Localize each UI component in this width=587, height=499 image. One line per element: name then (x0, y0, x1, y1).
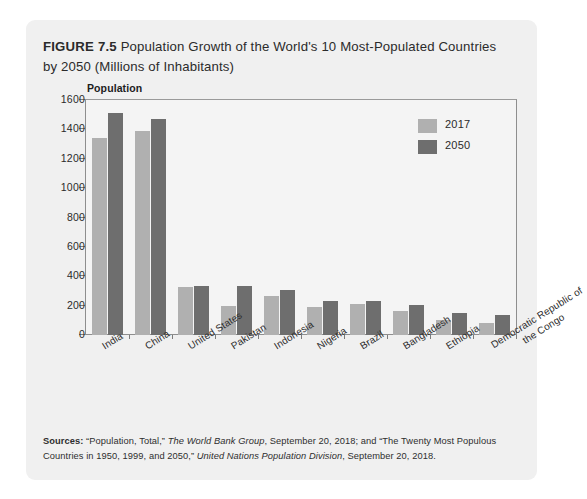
y-tick-label: 1400 (45, 122, 85, 134)
legend-row: 2017 (418, 118, 514, 135)
bar-2050 (151, 119, 166, 335)
legend-label: 2017 (445, 118, 470, 130)
bar-2017 (135, 131, 150, 335)
source-italic-1: The World Bank Group (168, 436, 265, 446)
legend-label: 2050 (445, 139, 470, 151)
bar-2017 (350, 304, 365, 335)
bar-group (350, 100, 381, 335)
bar-group (264, 100, 295, 335)
bar-2050 (108, 113, 123, 335)
source-italic-2: United Nations Population Division (197, 451, 342, 461)
bar-2017 (178, 287, 193, 335)
y-tick-label: 200 (45, 299, 85, 311)
bar-group (221, 100, 252, 335)
chart-region: Population 02004006008001000120014001600… (26, 82, 537, 432)
source-part-1: “Population, Total,” (83, 436, 167, 446)
source-part-3: , September 20, 2018. (342, 451, 436, 461)
source-note: Sources: “Population, Total,” The World … (43, 434, 521, 464)
y-tick-label: 1200 (45, 152, 85, 164)
figure-title: FIGURE 7.5 Population Growth of the Worl… (43, 37, 513, 77)
y-tick-label: 800 (45, 211, 85, 223)
bar-group (135, 100, 166, 335)
legend-swatch-2050 (418, 140, 437, 154)
y-axis-tick-labels: 02004006008001000120014001600 (26, 99, 85, 335)
y-tick-label: 0 (45, 328, 85, 340)
source-prefix: Sources: (43, 436, 83, 446)
x-tick-mark (129, 335, 130, 339)
x-tick-mark (387, 335, 388, 339)
figure-number: FIGURE 7.5 (43, 39, 117, 54)
chart-legend: 20172050 (418, 118, 514, 160)
y-tick-label: 600 (45, 240, 85, 252)
y-tick-label: 1000 (45, 181, 85, 193)
bar-group (92, 100, 123, 335)
y-axis-title: Population (87, 82, 142, 94)
bar-2017 (393, 311, 408, 335)
legend-swatch-2017 (418, 119, 437, 133)
y-tick-label: 1600 (45, 93, 85, 105)
y-tick-label: 400 (45, 269, 85, 281)
figure-card: FIGURE 7.5 Population Growth of the Worl… (26, 20, 537, 480)
x-axis-tick-labels: IndiaChinaUnited StatesPakistanIndonesia… (26, 340, 537, 430)
bar-2017 (92, 138, 107, 335)
bar-group (178, 100, 209, 335)
legend-row: 2050 (418, 139, 514, 156)
bar-group (307, 100, 338, 335)
